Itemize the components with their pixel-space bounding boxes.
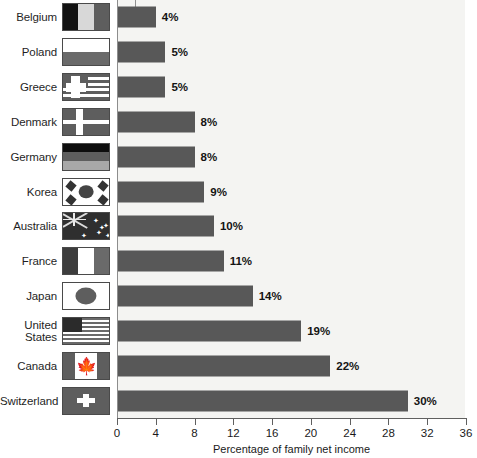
x-tick-label: 12: [227, 427, 240, 439]
chart-row: France11%: [0, 244, 477, 279]
flag-united-states-icon: [62, 317, 110, 345]
country-label: Canada: [0, 359, 57, 372]
bar: [117, 286, 253, 307]
bar-value-label: 8%: [201, 151, 218, 163]
country-label: Japan: [0, 290, 57, 303]
bar-value-label: 22%: [336, 360, 359, 372]
x-axis-title: Percentage of family net income: [117, 443, 466, 455]
x-tick: [272, 418, 273, 425]
bar: [117, 251, 224, 272]
bar: [117, 216, 214, 237]
x-tick: [311, 418, 312, 425]
country-label: Greece: [0, 81, 57, 94]
horizontal-bar-chart: Belgium4%Poland5%Greece5%Denmark8%German…: [0, 0, 477, 458]
y-axis-line: [117, 0, 118, 418]
x-tick: [195, 418, 196, 425]
x-tick-label: 32: [421, 427, 434, 439]
country-label: Germany: [0, 150, 57, 163]
bar-value-label: 8%: [201, 116, 218, 128]
flag-australia-icon: ✦✦✦✦✦✦: [62, 212, 110, 240]
chart-row: Korea9%: [0, 174, 477, 209]
country-label: Australia: [0, 220, 57, 233]
bar: [117, 146, 195, 167]
x-tick: [233, 418, 234, 425]
x-tick: [388, 418, 389, 425]
x-tick: [117, 418, 118, 425]
bar-value-label: 5%: [171, 81, 188, 93]
chart-row: Germany8%: [0, 139, 477, 174]
flag-denmark-icon: [62, 108, 110, 136]
bar-value-label: 19%: [307, 325, 330, 337]
x-axis-line: [117, 418, 466, 419]
flag-greece-icon: [62, 73, 110, 101]
bar-value-label: 4%: [162, 11, 179, 23]
x-tick-label: 20: [304, 427, 317, 439]
country-label: Belgium: [0, 11, 57, 24]
country-label: United States: [0, 318, 57, 343]
chart-row: Switzerland30%: [0, 383, 477, 418]
flag-poland-icon: [62, 38, 110, 66]
bar: [117, 181, 204, 202]
x-tick: [350, 418, 351, 425]
bar: [117, 7, 156, 28]
bar: [117, 355, 330, 376]
chart-row: Poland5%: [0, 35, 477, 70]
flag-france-icon: [62, 247, 110, 275]
country-label: Poland: [0, 46, 57, 59]
bar: [117, 42, 165, 63]
x-tick-label: 24: [343, 427, 356, 439]
x-tick-label: 0: [114, 427, 120, 439]
flag-switzerland-icon: [62, 387, 110, 415]
bar: [117, 77, 165, 98]
flag-korea-icon: [62, 178, 110, 206]
bar-value-label: 5%: [171, 46, 188, 58]
chart-row: Australia✦✦✦✦✦✦10%: [0, 209, 477, 244]
bar: [117, 390, 408, 411]
chart-row: Greece5%: [0, 70, 477, 105]
country-label: France: [0, 255, 57, 268]
x-tick: [427, 418, 428, 425]
x-tick-label: 4: [153, 427, 159, 439]
flag-canada-icon: 🍁: [62, 352, 110, 380]
country-label: Denmark: [0, 116, 57, 129]
x-tick-label: 8: [191, 427, 197, 439]
chart-row: Denmark8%: [0, 105, 477, 140]
x-tick-label: 28: [382, 427, 395, 439]
bar: [117, 320, 301, 341]
x-tick: [466, 418, 467, 425]
bar-value-label: 14%: [259, 290, 282, 302]
chart-row: Canada🍁22%: [0, 348, 477, 383]
country-label: Korea: [0, 185, 57, 198]
flag-japan-icon: [62, 282, 110, 310]
bar-value-label: 9%: [210, 186, 227, 198]
flag-germany-icon: [62, 143, 110, 171]
bar-value-label: 10%: [220, 220, 243, 232]
x-tick-label: 36: [460, 427, 473, 439]
x-tick-label: 16: [266, 427, 279, 439]
chart-row: Japan14%: [0, 279, 477, 314]
country-label: Switzerland: [0, 394, 57, 407]
chart-row: Belgium4%: [0, 0, 477, 35]
bar-value-label: 11%: [230, 255, 252, 267]
chart-row: United States19%: [0, 314, 477, 349]
x-tick: [156, 418, 157, 425]
bar-value-label: 30%: [414, 395, 437, 407]
flag-belgium-icon: [62, 3, 110, 31]
bar: [117, 111, 195, 132]
